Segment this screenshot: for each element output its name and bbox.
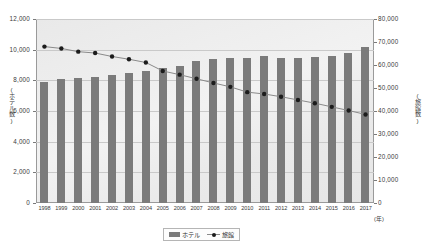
y-axis-right-title: (旅館数) <box>410 92 422 124</box>
legend-line-swatch-icon <box>207 232 220 237</box>
line-marker <box>296 98 300 102</box>
y-axis-left-tickmark <box>33 172 36 173</box>
line-marker <box>363 112 367 116</box>
line-marker <box>42 44 46 48</box>
line-marker <box>228 85 232 89</box>
y-axis-right-tick-label: 50,000 <box>378 84 412 91</box>
y-axis-right-tick-label: 80,000 <box>378 15 412 22</box>
y-axis-right-tickmark <box>374 157 377 158</box>
x-axis-tick-label: 2004 <box>137 205 154 217</box>
y-axis-right-tick-label: 30,000 <box>378 130 412 137</box>
y-axis-left-tick-label: 4,000 <box>0 138 30 145</box>
legend-item-ryokan: 旅館 <box>207 230 234 239</box>
x-axis-tick-label: 2017 <box>357 205 374 217</box>
line-marker <box>161 69 165 73</box>
line-marker <box>110 54 114 58</box>
y-axis-left-title: (ホテル数) <box>4 86 16 124</box>
y-axis-right-tick-label: 20,000 <box>378 153 412 160</box>
line-marker <box>127 57 131 61</box>
line-path <box>44 47 365 115</box>
x-axis-tick-label: 2015 <box>323 205 340 217</box>
line-series-ryokan <box>36 19 374 203</box>
x-axis-tick-label: 2007 <box>188 205 205 217</box>
x-axis-tick-label: 2013 <box>290 205 307 217</box>
y-axis-right-tick-label: 0 <box>378 199 412 206</box>
y-axis-left-tickmark <box>33 50 36 51</box>
chart-container: 02,0004,0006,0008,00010,00012,000 010,00… <box>0 0 427 248</box>
x-axis-labels: 1998199920002001200220032004200520062007… <box>36 205 374 217</box>
y-axis-left-tickmark <box>33 80 36 81</box>
y-axis-left-tick-label: 2,000 <box>0 168 30 175</box>
line-marker <box>144 60 148 64</box>
line-marker <box>245 90 249 94</box>
y-axis-right-tick-label: 40,000 <box>378 107 412 114</box>
x-axis-tick-label: 2002 <box>104 205 121 217</box>
y-axis-right-tickmark <box>374 134 377 135</box>
legend-item-hotel: ホテル <box>169 230 200 239</box>
x-axis-tick-label: 2000 <box>70 205 87 217</box>
y-axis-left-tick-label: 10,000 <box>0 46 30 53</box>
y-axis-right-tickmark <box>374 111 377 112</box>
line-marker <box>313 101 317 105</box>
line-marker <box>211 81 215 85</box>
x-axis-tick-label: 2014 <box>307 205 324 217</box>
line-marker <box>76 49 80 53</box>
line-marker <box>279 95 283 99</box>
legend-label-hotel: ホテル <box>182 230 200 239</box>
line-marker <box>330 105 334 109</box>
y-axis-right-tick-label: 10,000 <box>378 176 412 183</box>
x-axis-tick-label: 2003 <box>121 205 138 217</box>
line-marker <box>194 77 198 81</box>
y-axis-left-tick-label: 12,000 <box>0 15 30 22</box>
x-axis-unit-label: (年) <box>374 214 384 223</box>
y-axis-right-tickmark <box>374 180 377 181</box>
x-axis-tick-label: 2016 <box>340 205 357 217</box>
x-axis-tick-label: 1998 <box>36 205 53 217</box>
x-axis-tick-label: 2001 <box>87 205 104 217</box>
y-axis-right-tick-label: 60,000 <box>378 61 412 68</box>
legend-label-ryokan: 旅館 <box>222 230 234 239</box>
line-marker <box>59 46 63 50</box>
x-axis-tick-label: 1999 <box>53 205 70 217</box>
x-axis-tick-label: 2006 <box>171 205 188 217</box>
y-axis-left-tick-label: 0 <box>0 199 30 206</box>
y-axis-right-tickmark <box>374 88 377 89</box>
x-axis-tick-label: 2005 <box>154 205 171 217</box>
line-marker <box>93 51 97 55</box>
x-axis-tick-label: 2012 <box>273 205 290 217</box>
y-axis-left-tickmark <box>33 203 36 204</box>
x-axis-tick-label: 2008 <box>205 205 222 217</box>
y-axis-right-tickmark <box>374 19 377 20</box>
y-axis-right-tickmark <box>374 65 377 66</box>
legend-bar-swatch-icon <box>169 232 180 237</box>
x-axis-tick-label: 2010 <box>239 205 256 217</box>
chart-legend: ホテル 旅館 <box>163 228 240 241</box>
x-axis-tick-label: 2009 <box>222 205 239 217</box>
y-axis-left-tick-label: 8,000 <box>0 76 30 83</box>
line-marker <box>346 108 350 112</box>
y-axis-right-tickmark <box>374 203 377 204</box>
plot-area <box>36 19 374 203</box>
y-axis-left-tickmark <box>33 111 36 112</box>
line-marker <box>177 72 181 76</box>
y-axis-right-tick-label: 70,000 <box>378 38 412 45</box>
y-axis-right-tickmark <box>374 42 377 43</box>
y-axis-left-tickmark <box>33 19 36 20</box>
line-marker <box>262 92 266 96</box>
x-axis-tick-label: 2011 <box>256 205 273 217</box>
y-axis-left-tickmark <box>33 142 36 143</box>
